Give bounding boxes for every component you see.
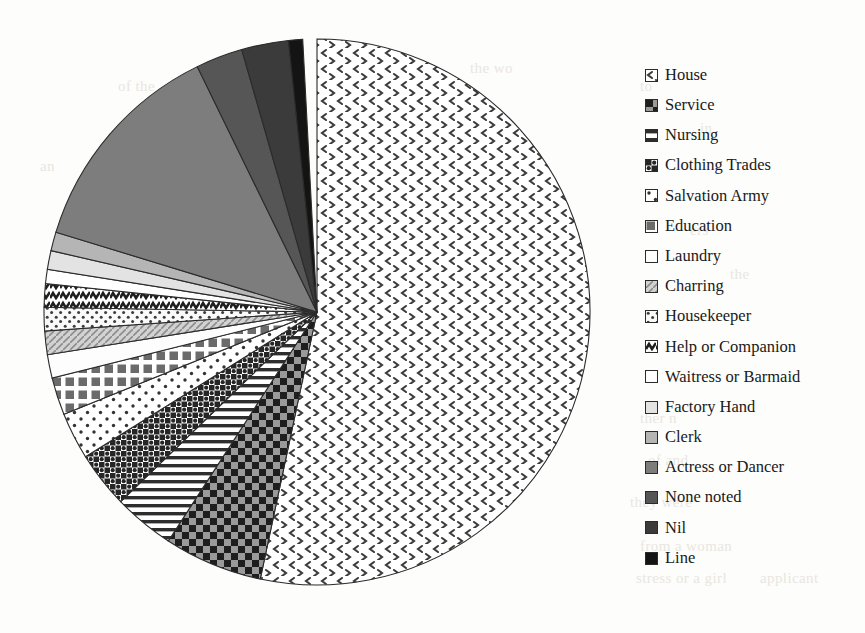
- legend-item[interactable]: Charring: [645, 271, 860, 301]
- legend-item-label: Help or Companion: [665, 339, 796, 356]
- legend-item[interactable]: Education: [645, 211, 860, 241]
- legend-item[interactable]: House: [645, 60, 860, 90]
- legend-item[interactable]: Laundry: [645, 241, 860, 271]
- pie-slices-group: [44, 39, 590, 585]
- legend-item[interactable]: Actress or Dancer: [645, 452, 860, 482]
- legend-item-label: House: [665, 67, 707, 84]
- legend-item-label: Housekeeper: [665, 308, 751, 325]
- chart-legend: HouseServiceNursingClothing TradesSalvat…: [645, 60, 860, 573]
- legend-item-label: Nursing: [665, 127, 718, 144]
- legend-swatch-icon: [645, 280, 658, 293]
- legend-swatch-icon: [645, 250, 658, 263]
- legend-item-label: Clerk: [665, 429, 702, 446]
- legend-item-label: Actress or Dancer: [665, 459, 784, 476]
- pie-chart-svg: [0, 0, 620, 633]
- pie-chart-area: [0, 0, 620, 633]
- legend-item-label: None noted: [665, 489, 742, 506]
- legend-item[interactable]: Waitress or Barmaid: [645, 362, 860, 392]
- legend-item-label: Factory Hand: [665, 399, 755, 416]
- legend-item-label: Charring: [665, 278, 724, 295]
- legend-item-label: Laundry: [665, 248, 721, 265]
- legend-swatch-icon: [645, 220, 658, 233]
- legend-item-label: Service: [665, 97, 714, 114]
- legend-item-label: Nil: [665, 520, 686, 537]
- legend-swatch-icon: [645, 129, 658, 142]
- legend-item[interactable]: None noted: [645, 483, 860, 513]
- legend-item-label: Waitress or Barmaid: [665, 369, 800, 386]
- legend-swatch-icon: [645, 99, 658, 112]
- legend-swatch-icon: [645, 521, 658, 534]
- legend-item[interactable]: Nil: [645, 513, 860, 543]
- legend-swatch-icon: [645, 431, 658, 444]
- legend-swatch-icon: [645, 310, 658, 323]
- legend-item[interactable]: Housekeeper: [645, 302, 860, 332]
- legend-item-label: Education: [665, 218, 732, 235]
- legend-swatch-icon: [645, 401, 658, 414]
- legend-swatch-icon: [645, 159, 658, 172]
- legend-item[interactable]: Service: [645, 90, 860, 120]
- legend-item[interactable]: Salvation Army: [645, 181, 860, 211]
- legend-swatch-icon: [645, 370, 658, 383]
- legend-swatch-icon: [645, 189, 658, 202]
- legend-item-label: Line: [665, 550, 695, 567]
- legend-item-label: Clothing Trades: [665, 157, 771, 174]
- legend-swatch-icon: [645, 461, 658, 474]
- legend-swatch-icon: [645, 69, 658, 82]
- legend-item[interactable]: Clerk: [645, 422, 860, 452]
- legend-swatch-icon: [645, 552, 658, 565]
- legend-item[interactable]: Factory Hand: [645, 392, 860, 422]
- legend-item[interactable]: Nursing: [645, 120, 860, 150]
- legend-item-label: Salvation Army: [665, 188, 769, 205]
- legend-swatch-icon: [645, 491, 658, 504]
- legend-swatch-icon: [645, 340, 658, 353]
- legend-item[interactable]: Help or Companion: [645, 332, 860, 362]
- legend-item[interactable]: Clothing Trades: [645, 151, 860, 181]
- legend-item[interactable]: Line: [645, 543, 860, 573]
